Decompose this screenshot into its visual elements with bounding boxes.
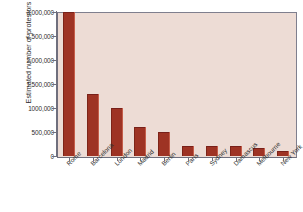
y-axis-tick-label: 2,500,000 bbox=[12, 33, 54, 40]
y-axis-tick-mark bbox=[52, 132, 57, 133]
y-axis-tick-label: 0 bbox=[12, 153, 54, 160]
y-axis-tick-labels: 0500,0001000,0001,500,0002,000,0002,500,… bbox=[12, 8, 54, 160]
x-axis-tick-mark bbox=[283, 157, 284, 161]
x-axis-tick-mark bbox=[140, 157, 141, 161]
y-axis-tick-mark bbox=[52, 156, 57, 157]
x-axis-tick-labels: RomeBarcelonaLondonMadridBerlinParisSydn… bbox=[0, 160, 303, 210]
y-axis-tick-label: 1,500,000 bbox=[12, 81, 54, 88]
x-axis-tick-mark bbox=[69, 157, 70, 161]
bar-series bbox=[57, 12, 295, 156]
y-axis-tick-label: 3,000,000 bbox=[12, 9, 54, 16]
y-axis-tick-label: 1000,000 bbox=[12, 105, 54, 112]
y-axis-tick-mark bbox=[52, 84, 57, 85]
x-axis-tick-mark bbox=[164, 157, 165, 161]
x-axis-tick-mark bbox=[259, 157, 260, 161]
y-axis-tick-mark bbox=[52, 36, 57, 37]
x-axis-tick-mark bbox=[117, 157, 118, 161]
x-axis-tick-mark bbox=[236, 157, 237, 161]
y-axis-tick-label: 500,000 bbox=[12, 129, 54, 136]
bar bbox=[87, 94, 99, 156]
y-axis-tick-mark bbox=[52, 60, 57, 61]
bar-chart-figure: Estimated number of protestors 0500,0001… bbox=[0, 0, 303, 212]
x-axis-tick-mark bbox=[93, 157, 94, 161]
bar bbox=[63, 12, 75, 156]
x-axis-tick-mark bbox=[188, 157, 189, 161]
y-axis-tick-label: 2,000,000 bbox=[12, 57, 54, 64]
y-axis-tick-mark bbox=[52, 108, 57, 109]
x-axis-tick-mark bbox=[212, 157, 213, 161]
y-axis-tick-mark bbox=[52, 12, 57, 13]
bar bbox=[111, 108, 123, 156]
